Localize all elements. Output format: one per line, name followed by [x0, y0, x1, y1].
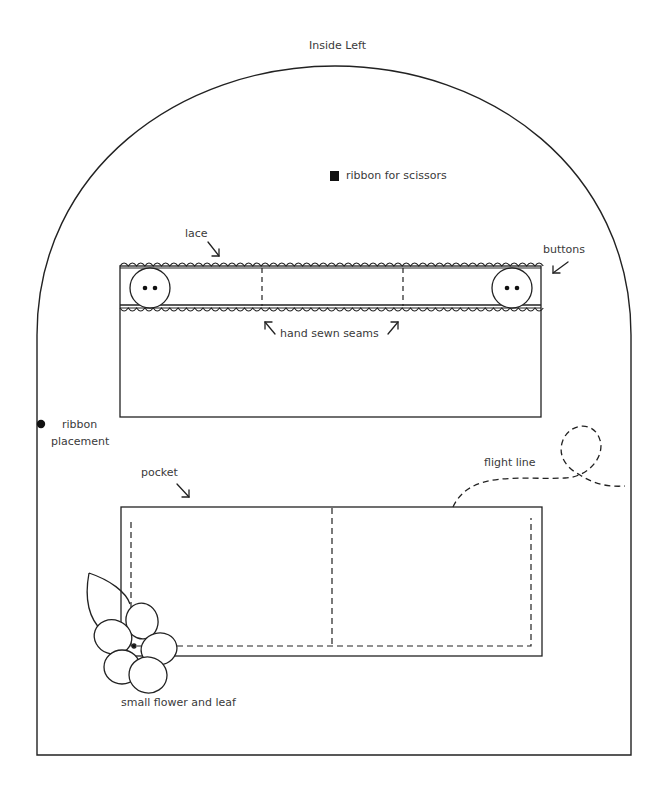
buttons-label: buttons [543, 243, 585, 257]
buttons-arrow-icon [553, 262, 568, 273]
flight-line [453, 426, 625, 507]
pocket-arrow-icon [177, 484, 189, 497]
pocket-label: pocket [141, 466, 178, 480]
ribbon-placement-label-1: ribbon [62, 418, 97, 432]
lace-arrow-icon [208, 242, 219, 256]
ribbon-dot-icon [37, 420, 45, 428]
flight-line-label: flight line [484, 456, 536, 470]
button-right-icon [492, 268, 532, 308]
hand-sewn-seams-label: hand sewn seams [280, 327, 379, 341]
ribbon-square-icon [330, 171, 339, 181]
pattern-diagram [0, 0, 669, 797]
flower-leaf-icon [87, 573, 180, 696]
button-left-icon [130, 268, 170, 308]
page-title: Inside Left [309, 39, 366, 53]
seams-arrow-right-icon [388, 322, 398, 334]
ribbon-placement-label-2: placement [51, 435, 109, 449]
seams-arrow-left-icon [265, 322, 275, 334]
lace-label: lace [185, 227, 208, 241]
pocket [121, 507, 542, 656]
ribbon-scissors-label: ribbon for scissors [346, 169, 447, 183]
small-flower-label: small flower and leaf [121, 696, 236, 710]
